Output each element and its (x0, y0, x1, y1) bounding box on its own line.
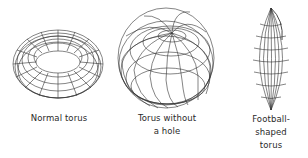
label-line: shaped (238, 126, 304, 139)
spindle-torus-figure (253, 8, 289, 110)
normal-torus-label: Normal torus (18, 112, 100, 125)
normal-torus-figure (13, 30, 103, 98)
horn-torus-figure (118, 8, 214, 108)
label-line: torus (238, 139, 304, 152)
label-line: Normal torus (18, 112, 100, 125)
horn-torus-label: Torus without a hole (122, 112, 212, 138)
spindle-torus-label: Football- shaped torus (238, 113, 304, 152)
label-line: a hole (122, 125, 212, 138)
label-line: Football- (238, 113, 304, 126)
label-line: Torus without (122, 112, 212, 125)
